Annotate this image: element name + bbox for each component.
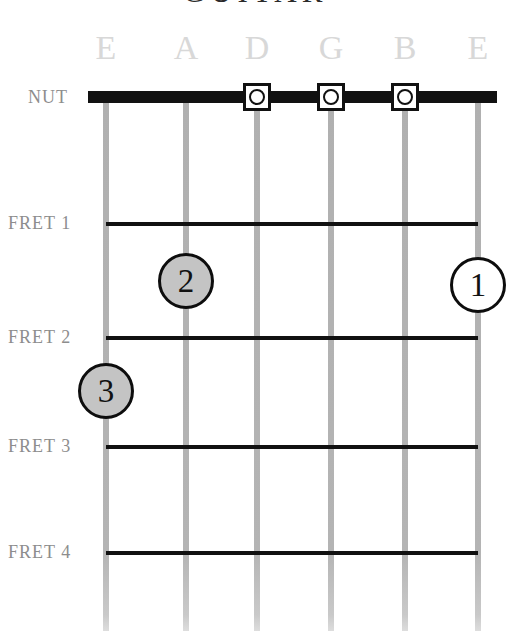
string-label-d: D xyxy=(237,28,277,68)
nut-label: NUT xyxy=(28,87,94,107)
finger-marker-2: 2 xyxy=(158,253,214,309)
string-label-e-high: E xyxy=(458,28,498,68)
finger-marker-1: 1 xyxy=(450,257,506,313)
open-string-marker-d xyxy=(243,83,271,111)
fret-label-4: FRET 4 xyxy=(8,542,94,562)
fret-label-2: FRET 2 xyxy=(8,327,94,347)
fret-line-2 xyxy=(106,336,478,340)
fret-line-1 xyxy=(106,222,478,226)
string-label-g: G xyxy=(311,28,351,68)
string-label-b: B xyxy=(385,28,425,68)
fret-line-4 xyxy=(106,551,478,555)
open-string-marker-b xyxy=(391,83,419,111)
string-label-a: A xyxy=(166,28,206,68)
open-circle-icon xyxy=(397,89,413,105)
finger-marker-3: 3 xyxy=(78,363,134,419)
open-circle-icon xyxy=(249,89,265,105)
nut-bar xyxy=(88,91,497,103)
fret-label-3: FRET 3 xyxy=(8,436,94,456)
string-label-e-low: E xyxy=(86,28,126,68)
open-circle-icon xyxy=(323,89,339,105)
fret-line-3 xyxy=(106,445,478,449)
diagram-title-clip: GUITAR xyxy=(0,0,510,8)
fret-label-1: FRET 1 xyxy=(8,213,94,233)
diagram-title: GUITAR xyxy=(0,0,510,8)
guitar-chord-diagram: GUITAR E A D G B E NUT FRET 1 FRET 2 FRE… xyxy=(0,0,510,631)
open-string-marker-g xyxy=(317,83,345,111)
